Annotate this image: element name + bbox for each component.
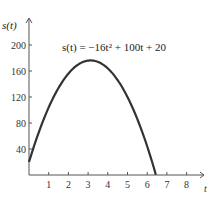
y-tick-label: 120 [11,92,26,103]
x-tick-label: 1 [46,179,51,190]
y-tick-label: 200 [11,40,26,51]
x-tick-label: 5 [125,179,130,190]
x-tick-label: 6 [145,179,150,190]
y-tick-label: 160 [11,66,26,77]
x-tick-label: 3 [86,179,91,190]
equation-annotation: s(t) = −16t² + 100t + 20 [62,41,166,54]
x-tick-label: 4 [105,179,110,190]
parabola-curve [29,60,156,174]
x-tick-label: 8 [184,179,189,190]
x-tick-label: 2 [66,179,71,190]
chart-canvas: 12345678 4080120160200 s(t) t s(t) = −16… [0,0,207,197]
y-tick-label: 80 [16,118,26,129]
y-tick-label: 40 [16,144,26,155]
y-axis-label: s(t) [2,19,17,32]
x-axis-label: t [204,183,207,194]
x-tick-label: 7 [164,179,169,190]
